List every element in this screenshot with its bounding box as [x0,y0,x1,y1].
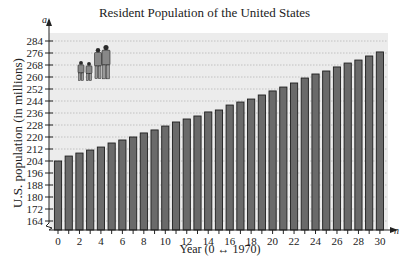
y-tick-label: 204 [27,155,44,167]
y-tick-label: 188 [27,179,44,191]
x-tick-label: 26 [331,235,343,247]
bar [108,143,115,230]
x-tick-label: 4 [98,235,104,247]
y-tick-label: 284 [27,35,44,47]
x-axis-arrow-icon [390,227,398,233]
y-tick-label: 180 [27,191,44,203]
bar [323,71,330,230]
y-tick-label: 228 [27,119,44,131]
y-tick-label: 276 [27,47,44,59]
x-tick-label: 14 [203,235,215,247]
bar [205,112,212,230]
y-tick-label: 212 [27,143,44,155]
bar [65,156,72,230]
bar [280,87,287,230]
y-axis-arrow-icon [46,18,52,26]
bar [226,105,233,230]
bar [151,130,158,230]
bar [344,63,351,230]
bar [130,137,137,230]
x-tick-label: 24 [310,235,322,247]
bar [290,83,297,230]
bar [54,161,61,230]
bar [301,78,308,230]
bar [248,99,255,230]
bar [183,119,190,230]
bar-chart: 1641721801881962042122202282362442522602… [0,0,409,272]
bar [237,102,244,230]
x-tick-label: 8 [141,235,147,247]
x-tick-label: 16 [224,235,236,247]
bar [162,126,169,230]
x-tick-label: 2 [77,235,83,247]
bar [258,95,265,230]
x-tick-label: 10 [160,235,172,247]
bar [215,110,222,230]
bar [172,122,179,230]
bar [376,52,383,230]
x-tick-label: 6 [120,235,126,247]
bar [140,133,147,230]
x-tick-label: 30 [374,235,386,247]
bar [119,140,126,230]
y-tick-label: 220 [27,131,44,143]
bar [269,91,276,230]
x-tick-label: 22 [289,235,300,247]
y-tick-label: 268 [27,59,44,71]
x-tick-label: 28 [353,235,365,247]
y-tick-label: 260 [27,71,44,83]
y-tick-label: 236 [27,107,44,119]
bar [76,153,83,230]
bar [333,67,340,230]
bar [194,116,201,230]
y-tick-label: 252 [27,83,44,95]
bar [366,56,373,230]
x-tick-label: 20 [267,235,279,247]
x-tick-label: 18 [246,235,258,247]
x-tick-label: 0 [55,235,61,247]
bar [312,74,319,230]
y-tick-label: 164 [27,215,44,227]
x-tick-label: 12 [181,235,192,247]
bar [355,60,362,230]
bar [87,150,94,230]
y-tick-label: 172 [27,203,44,215]
bar [97,147,104,230]
y-tick-label: 196 [27,167,44,179]
y-tick-label: 244 [27,95,44,107]
